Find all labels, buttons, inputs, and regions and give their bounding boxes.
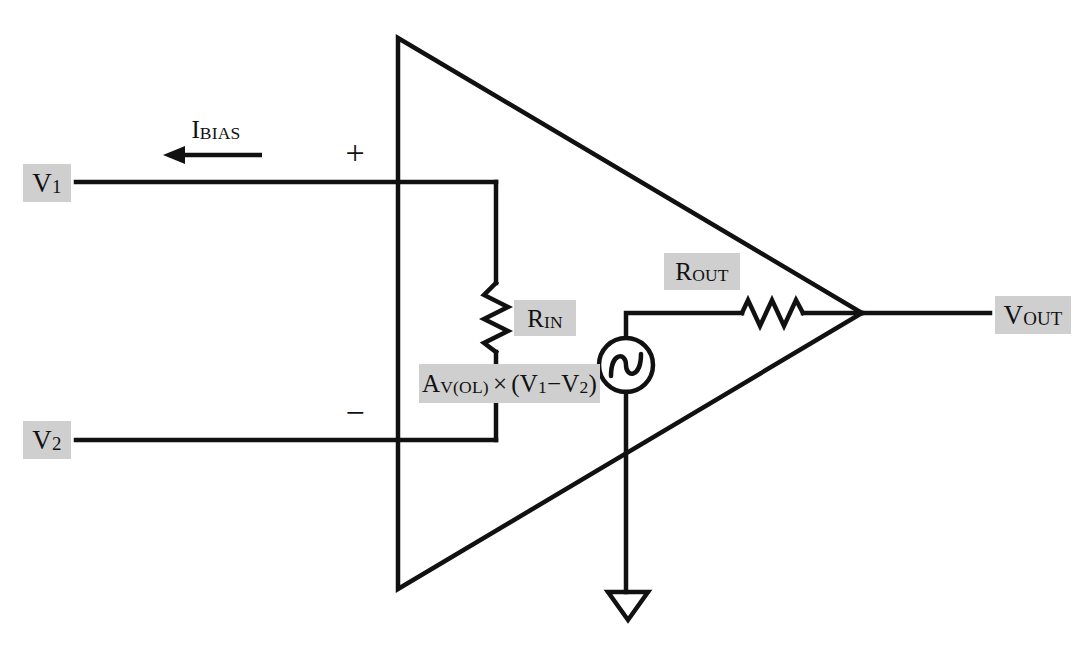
label-vout-base: V [1003,302,1023,329]
label-v1-base: V [32,170,52,197]
gain-v2-subscript: 2 [580,379,589,397]
label-rout: ROUT [664,253,740,290]
label-rout-base: R [675,259,692,284]
gain-close-paren: ) [588,371,597,396]
inverting-terminal-sign: − [338,396,372,430]
rin-resistor-zigzag [484,283,508,352]
label-v2-subscript: 2 [52,435,62,454]
gain-v1-subscript: 1 [538,379,547,397]
gain-open-paren: ( [511,371,520,396]
gain-v2: V [561,371,579,396]
label-vout: VOUT [995,296,1071,334]
label-vout-subscript: OUT [1023,310,1062,329]
label-rin-subscript: IN [544,314,563,332]
label-v1-subscript: 1 [52,178,62,197]
label-v2-base: V [32,427,52,454]
source-top-lead [626,313,742,338]
ibias-arrow-icon [163,146,262,164]
noninverting-terminal-sign: + [338,136,372,170]
gain-v1: V [520,371,538,396]
label-rout-subscript: OUT [692,267,729,285]
label-ibias-base: I [192,117,200,142]
label-v1: V1 [23,164,71,202]
gain-a: A [422,371,440,396]
opamp-circuit-diagram: V1 V2 VOUT RIN ROUT AV(OL)×(V1−V2) IBIAS… [0,0,1088,651]
label-rin-base: R [527,306,544,331]
gain-minus: − [547,371,561,396]
ground-icon [608,592,648,620]
label-ibias-subscript: BIAS [200,125,241,143]
gain-a-subscript: V(OL) [440,379,489,397]
gain-times: × [489,371,511,396]
label-gain-expression: AV(OL)×(V1−V2) [419,364,600,403]
label-ibias: IBIAS [183,114,249,144]
label-rin: RIN [514,300,576,336]
rout-resistor-zigzag [742,300,803,326]
label-v2: V2 [23,421,71,459]
